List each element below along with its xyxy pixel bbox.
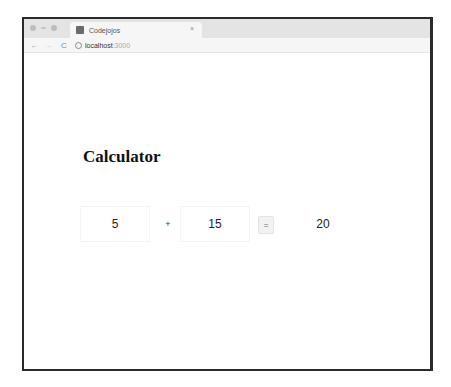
equals-button[interactable]: =	[258, 216, 274, 234]
maximize-window-button[interactable]	[51, 25, 57, 31]
forward-icon[interactable]: →	[43, 41, 53, 50]
page-title: Calculator	[83, 147, 160, 167]
reload-icon[interactable]: C	[59, 41, 69, 50]
url-host: localhost	[85, 42, 113, 49]
favicon-icon	[76, 26, 84, 34]
result-value: 20	[288, 206, 358, 242]
operator-label: +	[160, 206, 176, 242]
window-controls	[30, 25, 57, 31]
tab-title: Codejojos	[89, 27, 120, 34]
page-content: Calculator 5 + 15 = 20	[24, 54, 430, 369]
calculator: 5 + 15 = 20	[80, 206, 380, 242]
close-window-button[interactable]	[30, 25, 36, 31]
back-icon[interactable]: ←	[29, 41, 39, 50]
address-bar[interactable]: localhost :3000	[75, 42, 130, 49]
browser-toolbar: ← → C localhost :3000	[24, 38, 430, 53]
url-port: :3000	[113, 42, 131, 49]
operand-a-input[interactable]: 5	[80, 206, 150, 242]
browser-tab[interactable]: Codejojos ×	[70, 22, 202, 38]
info-icon[interactable]	[75, 42, 82, 49]
operand-b-input[interactable]: 15	[180, 206, 250, 242]
browser-window: Codejojos × ← → C localhost :3000 Calcul…	[22, 17, 433, 371]
tab-bar: Codejojos ×	[24, 19, 430, 38]
minimize-window-button[interactable]	[41, 27, 46, 29]
tab-close-icon[interactable]: ×	[190, 25, 194, 32]
